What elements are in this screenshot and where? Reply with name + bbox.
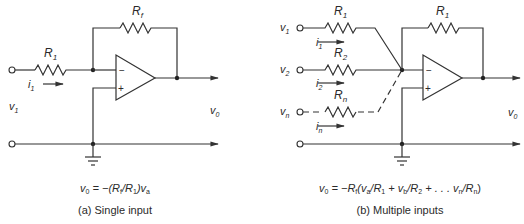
resistor-rn-icon <box>325 107 356 117</box>
label-r1: R1 <box>44 46 57 62</box>
label-feedback-r: R1 <box>436 4 449 20</box>
output-node <box>175 76 179 80</box>
opamp-plus-label: + <box>425 83 431 94</box>
label-r2: R2 <box>334 46 348 62</box>
opamp-minus-label: − <box>426 65 432 76</box>
input-terminal <box>9 67 15 73</box>
output-node <box>481 76 485 80</box>
equation-multiple-inputs: v0 = −Rf(va/R1 + vb/R2 + . . . vn/Rn) <box>319 182 481 195</box>
caption-single-input: (a) Single input <box>78 204 152 216</box>
single-input-inverting-amplifier <box>9 23 218 165</box>
ground-terminal <box>9 141 15 147</box>
label-i1: i1 <box>28 78 34 92</box>
ground-icon <box>85 144 101 165</box>
opamp-plus-label: + <box>118 83 124 94</box>
label-v2: v2 <box>280 63 290 77</box>
label-i1: i1 <box>316 36 322 50</box>
equation-single-input: v0 = −(Rf/R1)va <box>80 182 150 195</box>
label-rn: Rn <box>334 88 348 104</box>
resistor-r1-icon <box>35 65 93 75</box>
caption-multiple-inputs: (b) Multiple inputs <box>357 204 444 216</box>
label-v1: v1 <box>280 21 290 35</box>
label-in: in <box>316 120 322 134</box>
opamp-minus-label: − <box>119 65 125 76</box>
label-v0: v0 <box>508 106 518 120</box>
label-rf: Rf <box>132 4 144 20</box>
ground-icon <box>394 144 410 165</box>
label-v0: v0 <box>210 104 220 118</box>
label-i2: i2 <box>316 77 322 91</box>
label-v1: v1 <box>9 100 19 114</box>
resistor-r2-icon <box>303 65 423 75</box>
label-r1: R1 <box>334 4 347 20</box>
multiple-input-summing-amplifier <box>297 23 520 165</box>
label-vn: vn <box>280 105 290 119</box>
circuit-diagram: R1 Rf − + i1 v1 v0 v0 = −(Rf/R1)va (a) S… <box>0 0 524 224</box>
